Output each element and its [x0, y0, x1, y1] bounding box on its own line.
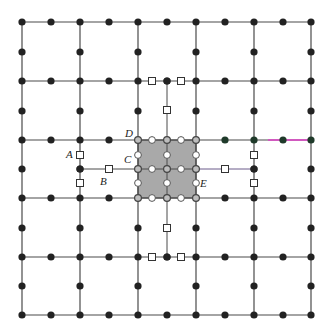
shared-node — [135, 195, 142, 202]
fine-node-circle — [178, 137, 185, 144]
hanging-node-square — [149, 254, 156, 261]
hanging-node-square — [77, 180, 84, 187]
node-dot — [307, 224, 314, 231]
highlighted-node-dot — [250, 136, 257, 143]
node-dot — [250, 18, 257, 25]
node-dot — [307, 107, 314, 114]
node-dot — [134, 311, 141, 318]
node-dot — [134, 77, 141, 84]
node-dot — [192, 224, 199, 231]
shared-node — [164, 166, 171, 173]
highlighted-node-dot — [221, 136, 228, 143]
hanging-node-square — [164, 107, 171, 114]
node-dot — [192, 18, 199, 25]
node-dot — [18, 18, 25, 25]
shared-node — [193, 195, 200, 202]
node-dot — [163, 18, 170, 25]
node-dot — [18, 107, 25, 114]
fine-node-circle — [149, 195, 156, 202]
node-dot — [307, 194, 314, 201]
mesh-refinement-diagram — [0, 0, 330, 336]
node-dot — [307, 77, 314, 84]
node-dot — [47, 253, 54, 260]
node-dot — [18, 77, 25, 84]
node-dot — [76, 282, 83, 289]
node-dot — [221, 194, 228, 201]
node-dot — [250, 282, 257, 289]
fine-node-circle — [178, 166, 185, 173]
node-dot — [192, 253, 199, 260]
label-c: C — [124, 154, 131, 165]
node-dot — [47, 311, 54, 318]
node-dot — [76, 165, 83, 172]
shared-node — [193, 137, 200, 144]
shared-node — [164, 137, 171, 144]
node-dot — [221, 253, 228, 260]
node-dot — [76, 136, 83, 143]
node-dot — [18, 282, 25, 289]
hanging-node-square — [251, 152, 258, 159]
shared-node — [135, 137, 142, 144]
node-dot — [307, 18, 314, 25]
node-dot — [250, 194, 257, 201]
node-dot — [250, 253, 257, 260]
node-dot — [307, 48, 314, 55]
node-dot — [105, 194, 112, 201]
label-d: D — [125, 128, 133, 139]
node-dot — [250, 311, 257, 318]
node-dot — [76, 107, 83, 114]
node-dot — [250, 77, 257, 84]
shared-node — [193, 166, 200, 173]
node-dot — [163, 77, 170, 84]
node-dot — [250, 224, 257, 231]
node-dot — [221, 77, 228, 84]
node-dot — [250, 107, 257, 114]
hanging-node-square — [222, 166, 229, 173]
node-dot — [279, 311, 286, 318]
node-dot — [307, 282, 314, 289]
highlighted-node-dot — [307, 136, 314, 143]
node-dot — [134, 18, 141, 25]
node-dot — [18, 48, 25, 55]
hanging-node-square — [178, 254, 185, 261]
hanging-node-square — [178, 78, 185, 85]
node-dot — [279, 253, 286, 260]
label-b: B — [100, 176, 107, 187]
fine-node-circle — [149, 137, 156, 144]
node-dot — [76, 194, 83, 201]
fine-node-circle — [135, 152, 142, 159]
node-dot — [250, 165, 257, 172]
fine-node-circle — [178, 195, 185, 202]
diagram-canvas: A B C D E — [0, 0, 330, 336]
node-dot — [105, 77, 112, 84]
fine-node-circle — [164, 152, 171, 159]
fine-node-circle — [149, 166, 156, 173]
node-dot — [18, 194, 25, 201]
node-dot — [18, 253, 25, 260]
highlighted-node-dot — [279, 136, 286, 143]
node-dot — [76, 18, 83, 25]
node-dot — [47, 18, 54, 25]
node-dot — [134, 282, 141, 289]
node-dot — [307, 311, 314, 318]
node-dot — [279, 194, 286, 201]
node-dot — [307, 165, 314, 172]
node-dot — [134, 107, 141, 114]
node-dot — [192, 48, 199, 55]
node-dot — [76, 224, 83, 231]
node-dot — [105, 253, 112, 260]
node-dot — [279, 18, 286, 25]
node-dot — [47, 77, 54, 84]
node-dot — [192, 107, 199, 114]
hanging-node-square — [77, 152, 84, 159]
node-dot — [18, 311, 25, 318]
hanging-node-square — [149, 78, 156, 85]
node-dot — [18, 165, 25, 172]
shared-node — [164, 195, 171, 202]
node-dot — [105, 18, 112, 25]
fine-node-circle — [164, 180, 171, 187]
node-dot — [76, 311, 83, 318]
fine-node-circle — [193, 152, 200, 159]
node-dot — [76, 48, 83, 55]
node-dot — [192, 311, 199, 318]
